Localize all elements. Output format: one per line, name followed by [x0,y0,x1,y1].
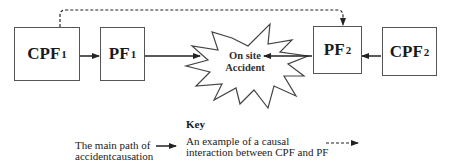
node-pf1: PF1 [100,27,145,81]
node-cpf1: CPF1 [14,27,80,81]
node-pf1-label: PF [109,44,130,64]
edge-cpf1-pf2-dashed [60,10,343,27]
key-title: Key [186,118,205,130]
node-cpf2-label: CPF [390,42,423,62]
node-cpf2-sub: 2 [424,46,430,58]
key-main-path-line2: accidentcausation [75,151,153,162]
accident-label-line1: On site [205,50,285,62]
node-pf2: PF2 [313,26,362,74]
node-pf2-label: PF [324,40,345,60]
node-cpf1-label: CPF [27,44,60,64]
node-pf2-sub: 2 [346,44,352,56]
accident-label-line2: Accident [205,62,285,74]
node-cpf1-sub: 1 [61,48,67,60]
accident-label: On site Accident [205,50,285,74]
node-pf1-sub: 1 [131,48,137,60]
key-interaction-text: An example of a causal interaction betwe… [186,136,328,158]
key-main-path-text: The main path of accidentcausation [75,140,153,162]
node-cpf2: CPF2 [382,27,437,76]
key-interaction-line2: interaction between CPF and PF [186,147,328,158]
